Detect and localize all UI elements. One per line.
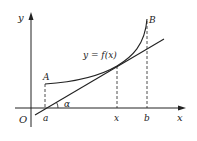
point-b-label: B	[148, 15, 156, 25]
x-axis-label: x	[177, 112, 183, 123]
function-tangent-diagram: y O x A B y = f(x) α a x b	[0, 0, 197, 141]
point-a-label: A	[42, 72, 50, 82]
origin-label: O	[19, 114, 27, 125]
tick-label-a: a	[43, 113, 48, 123]
curve-label: y = f(x)	[82, 50, 117, 60]
y-axis-arrow-icon	[29, 12, 34, 20]
tick-label-b: b	[144, 113, 150, 123]
angle-label: α	[64, 99, 70, 109]
y-axis-label: y	[17, 12, 24, 23]
angle-arc	[57, 102, 59, 108]
tick-label-x: x	[114, 113, 119, 123]
x-axis	[15, 106, 186, 111]
x-axis-arrow-icon	[178, 106, 186, 111]
y-axis	[29, 12, 34, 127]
